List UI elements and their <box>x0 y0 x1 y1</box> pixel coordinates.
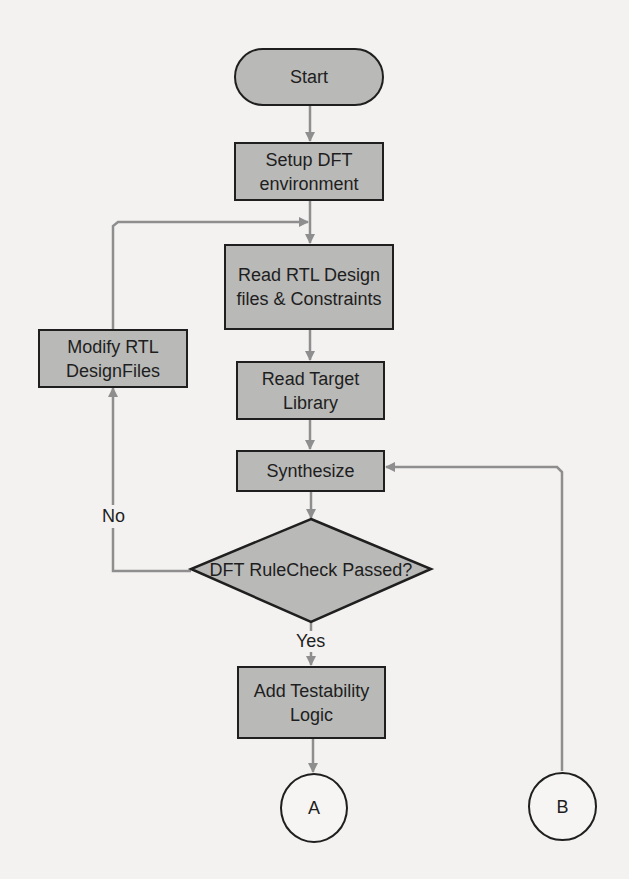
modify-rtl-node: Modify RTL DesignFiles <box>38 329 188 388</box>
connector-a: A <box>280 773 348 843</box>
read-target-node: Read Target Library <box>236 361 385 420</box>
setup-label-line2: environment <box>259 172 358 196</box>
start-node: Start <box>234 48 384 106</box>
add-test-label-line1: Add Testability <box>254 679 370 703</box>
setup-label-line1: Setup DFT <box>265 148 352 172</box>
add-testability-node: Add Testability Logic <box>237 666 386 739</box>
connector-lines <box>0 0 629 879</box>
add-test-label-line2: Logic <box>290 703 333 727</box>
synthesize-node: Synthesize <box>236 450 385 492</box>
modify-label-line2: DesignFiles <box>66 359 160 383</box>
connector-b-label: B <box>556 795 568 819</box>
connector-a-label: A <box>308 796 320 820</box>
read-target-label-line2: Library <box>283 391 338 415</box>
decision-label: DFT RuleCheck Passed? <box>210 560 413 581</box>
read-rtl-label-line2: files & Constraints <box>236 287 381 311</box>
modify-label-line1: Modify RTL <box>67 335 159 359</box>
edge-label-yes: Yes <box>294 631 327 652</box>
read-rtl-node: Read RTL Design files & Constraints <box>224 244 394 330</box>
edge-label-no: No <box>100 506 127 527</box>
read-target-label-line1: Read Target <box>262 367 360 391</box>
start-label: Start <box>290 65 328 89</box>
read-rtl-label-line1: Read RTL Design <box>238 263 380 287</box>
setup-dft-node: Setup DFT environment <box>234 142 384 201</box>
synthesize-label: Synthesize <box>266 459 354 483</box>
connector-b: B <box>528 772 597 841</box>
